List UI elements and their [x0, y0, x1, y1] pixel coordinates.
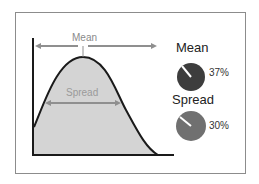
spread-dial-value: 30%	[209, 121, 229, 131]
spread-dial	[176, 111, 206, 141]
mean-dial-value: 37%	[209, 68, 229, 78]
mean-arrow	[35, 43, 157, 57]
spread-arrow-label: Spread	[66, 88, 98, 98]
spread-dial-title: Spread	[172, 93, 214, 106]
mean-dial-title: Mean	[176, 41, 209, 54]
distribution-area	[34, 57, 158, 155]
mean-arrow-label: Mean	[72, 33, 97, 43]
distribution-chart	[0, 0, 259, 184]
mean-dial	[177, 63, 205, 91]
